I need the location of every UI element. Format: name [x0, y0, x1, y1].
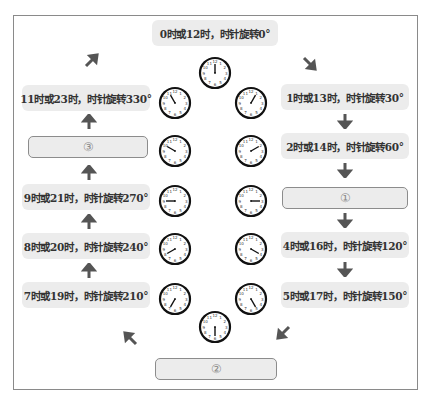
svg-text:3: 3 — [261, 297, 264, 302]
svg-text:12: 12 — [248, 187, 254, 192]
clock-icon: 123456789101112 — [198, 56, 232, 90]
svg-text:2: 2 — [183, 241, 186, 246]
arrow-down-icon — [337, 162, 353, 178]
svg-text:8: 8 — [164, 252, 167, 257]
svg-text:9: 9 — [163, 199, 166, 204]
svg-text:9: 9 — [239, 199, 242, 204]
blank-2[interactable]: ② — [155, 358, 277, 380]
svg-text:8: 8 — [204, 330, 207, 335]
svg-text:6: 6 — [214, 336, 217, 341]
label-hour-8: 8时或20时，时针旋转240° — [22, 233, 150, 259]
svg-text:8: 8 — [240, 106, 243, 111]
clock-icon: 123456789101112 — [234, 232, 268, 266]
svg-text:7: 7 — [168, 306, 171, 311]
svg-text:7: 7 — [244, 110, 247, 115]
svg-text:6: 6 — [174, 210, 177, 215]
label-hour-11: 11时或23时，时针旋转330° — [22, 85, 150, 111]
svg-text:9: 9 — [203, 71, 206, 76]
arrow-down-icon — [337, 113, 353, 129]
label-hour-5: 5时或17时，时针旋转150° — [281, 282, 409, 308]
blank-3[interactable]: ③ — [28, 136, 148, 158]
arrow-down-icon — [337, 212, 353, 228]
label-hour-0: 0时或12时，时针旋转0° — [152, 20, 278, 46]
svg-text:7: 7 — [244, 256, 247, 261]
svg-text:7: 7 — [168, 208, 171, 213]
svg-text:6: 6 — [250, 160, 253, 165]
svg-text:7: 7 — [244, 208, 247, 213]
clock-icon: 123456789101112 — [234, 184, 268, 218]
svg-text:2: 2 — [259, 291, 262, 296]
svg-text:6: 6 — [174, 258, 177, 263]
arrow-up-icon — [81, 263, 97, 279]
svg-text:3: 3 — [185, 297, 188, 302]
svg-text:12: 12 — [248, 89, 254, 94]
svg-text:8: 8 — [240, 302, 243, 307]
svg-text:12: 12 — [212, 313, 218, 318]
svg-text:3: 3 — [261, 247, 264, 252]
clock-icon: 123456789101112 — [158, 134, 192, 168]
svg-text:2: 2 — [259, 95, 262, 100]
svg-text:7: 7 — [168, 110, 171, 115]
svg-text:7: 7 — [208, 334, 211, 339]
svg-text:6: 6 — [214, 82, 217, 87]
svg-text:2: 2 — [183, 143, 186, 148]
svg-text:8: 8 — [164, 154, 167, 159]
clock-icon: 123456789101112 — [198, 310, 232, 344]
svg-text:6: 6 — [250, 112, 253, 117]
svg-text:4: 4 — [183, 204, 186, 209]
svg-text:4: 4 — [223, 76, 226, 81]
svg-text:6: 6 — [250, 308, 253, 313]
svg-text:4: 4 — [259, 302, 262, 307]
svg-text:12: 12 — [248, 235, 254, 240]
svg-text:3: 3 — [225, 71, 228, 76]
svg-text:4: 4 — [183, 252, 186, 257]
svg-text:8: 8 — [240, 154, 243, 159]
svg-text:9: 9 — [203, 325, 206, 330]
clock-icon: 123456789101112 — [158, 282, 192, 316]
svg-text:3: 3 — [225, 325, 228, 330]
svg-text:8: 8 — [240, 204, 243, 209]
clock-icon: 123456789101112 — [158, 86, 192, 120]
svg-text:2: 2 — [223, 319, 226, 324]
clock-icon: 123456789101112 — [234, 86, 268, 120]
clock-icon: 123456789101112 — [234, 282, 268, 316]
svg-text:4: 4 — [223, 330, 226, 335]
svg-text:9: 9 — [239, 247, 242, 252]
svg-text:2: 2 — [259, 143, 262, 148]
svg-text:3: 3 — [185, 199, 188, 204]
svg-text:4: 4 — [259, 252, 262, 257]
clock-icon: 123456789101112 — [158, 232, 192, 266]
svg-text:9: 9 — [239, 101, 242, 106]
arrow-up-icon — [81, 165, 97, 181]
blank-1[interactable]: ① — [282, 187, 408, 209]
svg-text:2: 2 — [259, 193, 262, 198]
svg-text:4: 4 — [183, 302, 186, 307]
label-hour-1: 1时或13时，时针旋转30° — [281, 84, 409, 110]
svg-text:3: 3 — [185, 101, 188, 106]
svg-text:2: 2 — [183, 291, 186, 296]
arrow-down-right-icon — [302, 56, 318, 72]
svg-text:3: 3 — [185, 149, 188, 154]
svg-text:6: 6 — [174, 160, 177, 165]
arrow-up-right-icon — [84, 52, 100, 68]
svg-text:8: 8 — [164, 204, 167, 209]
svg-text:9: 9 — [163, 297, 166, 302]
clock-icon: 123456789101112 — [158, 184, 192, 218]
svg-text:3: 3 — [261, 199, 264, 204]
svg-text:12: 12 — [248, 285, 254, 290]
svg-text:7: 7 — [208, 80, 211, 85]
svg-text:7: 7 — [168, 158, 171, 163]
svg-text:6: 6 — [250, 258, 253, 263]
label-hour-2: 2时或14时，时针旋转60° — [281, 133, 409, 159]
svg-text:9: 9 — [239, 149, 242, 154]
svg-text:12: 12 — [172, 235, 178, 240]
svg-text:12: 12 — [172, 187, 178, 192]
svg-text:12: 12 — [172, 285, 178, 290]
svg-text:9: 9 — [163, 247, 166, 252]
svg-text:12: 12 — [248, 137, 254, 142]
svg-text:7: 7 — [244, 306, 247, 311]
svg-text:12: 12 — [172, 89, 178, 94]
svg-text:4: 4 — [259, 106, 262, 111]
svg-text:2: 2 — [259, 241, 262, 246]
svg-text:8: 8 — [164, 302, 167, 307]
